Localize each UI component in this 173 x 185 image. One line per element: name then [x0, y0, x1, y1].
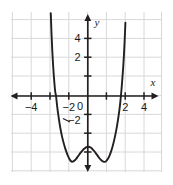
x-axis-name-label: x [150, 76, 156, 88]
x-tick-label-2: 2 [122, 101, 128, 113]
x-tick-label-4: 4 [141, 101, 147, 113]
y-axis-name-label: y [94, 16, 100, 28]
origin-label: 0 [77, 100, 83, 112]
y-tick-label--2: −2 [68, 114, 81, 126]
graph-figure: −4 −2 2 4 2 4 −2 0 x y [0, 0, 173, 185]
y-tick-label-2: 2 [74, 51, 80, 63]
x-tick-label--4: −4 [25, 101, 38, 113]
coordinate-plane-svg: −4 −2 2 4 2 4 −2 0 x y [0, 0, 173, 185]
figure-background [0, 0, 173, 185]
x-tick-label--2: −2 [63, 101, 76, 113]
y-tick-label-4: 4 [74, 32, 80, 44]
